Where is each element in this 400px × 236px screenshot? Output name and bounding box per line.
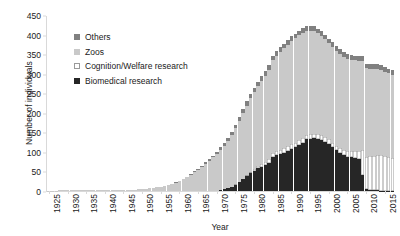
bar-segment-zoos <box>391 75 395 158</box>
x-axis-tick-label: 1970 <box>220 194 230 213</box>
legend-item-label: Zoos <box>85 47 104 57</box>
x-axis-tick-label: 1925 <box>52 194 62 213</box>
x-axis-tick-mark <box>49 191 50 194</box>
legend-item-others[interactable]: Others <box>74 30 188 45</box>
x-axis-tick-label: 1940 <box>108 194 118 213</box>
x-axis-tick-mark <box>385 191 386 194</box>
legend-swatch-icon <box>74 49 80 55</box>
legend-item-cognition-welfare[interactable]: Cognition/Welfare research <box>74 59 188 74</box>
x-axis-tick-label: 1980 <box>257 194 267 213</box>
x-axis-tick-label: 1960 <box>183 194 193 213</box>
legend-item-label: Cognition/Welfare research <box>85 61 188 71</box>
x-axis-tick-mark <box>198 191 199 194</box>
y-axis-tick-label: 300 <box>27 70 41 80</box>
y-axis-tick-label: 250 <box>27 89 41 99</box>
x-axis-tick-label: 2015 <box>388 194 398 213</box>
x-axis-tick-mark <box>329 191 330 194</box>
chart-legend: OthersZoosCognition/Welfare researchBiom… <box>74 30 188 88</box>
x-axis-tick-label: 1935 <box>89 194 99 213</box>
legend-swatch-icon <box>74 78 80 84</box>
y-axis-tick-label: 200 <box>27 109 41 119</box>
x-axis-tick-label: 2010 <box>369 194 379 213</box>
x-axis-tick-mark <box>273 191 274 194</box>
chart-container: Number of individuals 050100150200250300… <box>0 0 400 236</box>
y-axis-tick-mark <box>43 192 46 193</box>
x-axis-tick-mark <box>179 191 180 194</box>
y-axis-tick-label: 450 <box>27 11 41 21</box>
x-axis-line <box>46 191 394 192</box>
y-axis-tick-mark <box>43 35 46 36</box>
x-axis-tick-label: 2005 <box>351 194 361 213</box>
x-axis-tick-mark <box>68 191 69 194</box>
y-axis-tick-mark <box>43 152 46 153</box>
x-axis-tick-mark <box>366 191 367 194</box>
y-axis-tick-mark <box>43 74 46 75</box>
x-axis-tick-mark <box>123 191 124 194</box>
y-axis-tick-mark <box>43 94 46 95</box>
x-axis-tick-label: 1950 <box>145 194 155 213</box>
bar-segment-cognition-welfare <box>391 158 395 191</box>
x-axis-tick-mark <box>217 191 218 194</box>
legend-item-biomedical[interactable]: Biomedical research <box>74 74 188 89</box>
x-axis-tick-label: 2000 <box>332 194 342 213</box>
legend-item-zoos[interactable]: Zoos <box>74 45 188 60</box>
x-axis-tick-mark <box>142 191 143 194</box>
x-axis-tick-label: 1975 <box>239 194 249 213</box>
y-axis-tick-mark <box>43 113 46 114</box>
x-axis-tick-mark <box>254 191 255 194</box>
x-axis-tick-label: 1955 <box>164 194 174 213</box>
x-axis-title: Year <box>46 222 394 232</box>
x-axis-tick-label: 1945 <box>127 194 137 213</box>
x-axis-tick-mark <box>310 191 311 194</box>
legend-item-label: Others <box>85 32 111 42</box>
x-axis-tick-mark <box>105 191 106 194</box>
x-axis-tick-label: 1965 <box>201 194 211 213</box>
legend-swatch-icon <box>74 34 80 40</box>
legend-swatch-icon <box>74 63 80 69</box>
x-axis-tick-label: 1990 <box>295 194 305 213</box>
y-axis-tick-mark <box>43 133 46 134</box>
y-axis-tick-label: 0 <box>36 187 41 197</box>
x-axis-tick-mark <box>291 191 292 194</box>
y-axis-tick-label: 150 <box>27 128 41 138</box>
y-axis-tick-label: 50 <box>32 167 41 177</box>
x-axis-tick-mark <box>347 191 348 194</box>
legend-item-label: Biomedical research <box>85 76 162 86</box>
x-axis-tick-mark <box>235 191 236 194</box>
y-axis-tick-label: 100 <box>27 148 41 158</box>
x-axis-tick-label: 1930 <box>71 194 81 213</box>
y-axis-tick-label: 400 <box>27 31 41 41</box>
y-axis-title: Number of individuals <box>24 18 34 188</box>
y-axis-tick-mark <box>43 16 46 17</box>
x-axis-tick-label: 1995 <box>313 194 323 213</box>
x-axis-tick-mark <box>86 191 87 194</box>
x-axis-tick-mark <box>161 191 162 194</box>
x-axis-ticks: 1925193019351940194519501955196019651970… <box>46 194 394 222</box>
bar-column <box>391 16 395 191</box>
y-axis-tick-mark <box>43 55 46 56</box>
y-axis-tick-mark <box>43 172 46 173</box>
y-axis-tick-label: 350 <box>27 50 41 60</box>
x-axis-tick-label: 1985 <box>276 194 286 213</box>
